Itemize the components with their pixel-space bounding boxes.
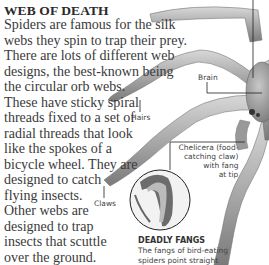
caption-heading-deadly-fangs: DEADLY FANGS bbox=[138, 236, 205, 245]
body-line: insects that scuttle bbox=[4, 234, 107, 250]
body-line: webs they spin to trap their prey. bbox=[4, 33, 187, 49]
body-line: radial threads that look bbox=[4, 126, 133, 142]
body-line: over the ground. bbox=[4, 250, 96, 265]
label-chelicera-line: with fang bbox=[178, 161, 238, 170]
label-chelicera-line: catching claw) bbox=[178, 152, 238, 161]
body-line: designed to trap bbox=[4, 219, 93, 235]
caption-line: The fangs of bird-eating bbox=[138, 246, 228, 256]
label-chelicera-line: Chelicera (food- bbox=[178, 143, 238, 152]
body-line: There are lots of different web bbox=[4, 48, 174, 64]
label-chelicera-line: at tip bbox=[178, 170, 238, 179]
body-line: flying insects. bbox=[4, 188, 83, 204]
body-line: Other webs are bbox=[4, 203, 89, 219]
label-brain: Brain bbox=[198, 73, 218, 82]
body-line: designed to catch bbox=[4, 172, 101, 188]
body-line: like the spokes of a bbox=[4, 141, 112, 157]
label-claws: Claws bbox=[94, 199, 116, 208]
body-line: Spiders are famous for the silk bbox=[4, 17, 175, 33]
caption-line: spiders point straight bbox=[138, 256, 218, 265]
label-chelicera: Chelicera (food- catching claw) with fan… bbox=[178, 143, 238, 179]
body-line: the circular orb webs. bbox=[4, 79, 125, 95]
body-line: These have sticky spiral bbox=[4, 95, 139, 111]
label-hairs: Hairs bbox=[131, 113, 150, 122]
body-line: threads fixed to a set of bbox=[4, 110, 135, 126]
body-line: designs, the best-known being bbox=[4, 64, 174, 80]
body-line: bicycle wheel. They are bbox=[4, 157, 137, 173]
